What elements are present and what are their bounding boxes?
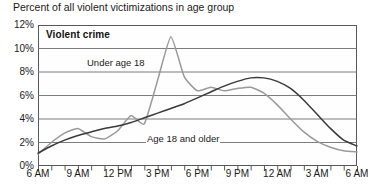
chart-title: Percent of all violent victimizations in… xyxy=(13,1,234,13)
x-tick-label: 9 AM xyxy=(66,168,89,179)
x-tick-label: 12 PM xyxy=(103,168,132,179)
x-tick-label: 6 AM xyxy=(346,168,369,179)
x-tick-label: 12 AM xyxy=(263,168,291,179)
x-tick-label: 3 PM xyxy=(146,168,169,179)
x-tick-label: 6 AM xyxy=(27,168,50,179)
y-tick-label: 2% xyxy=(20,138,34,148)
plot-header-label: Violent crime xyxy=(46,29,110,40)
y-tick-label: 6% xyxy=(20,91,34,101)
x-axis-tick-labels: 6 AM9 AM12 PM3 PM6 PM9 PM12 AM3 AM6 AM xyxy=(0,168,383,182)
y-tick-label: 10% xyxy=(14,44,34,54)
x-tick-label: 6 PM xyxy=(186,168,209,179)
series-label-under-18: Under age 18 xyxy=(86,57,146,68)
series-label-age-18-older: Age 18 and older xyxy=(146,133,220,144)
y-tick-label: 12% xyxy=(14,20,34,30)
x-tick-label: 3 AM xyxy=(306,168,329,179)
y-tick-label: 4% xyxy=(20,114,34,124)
series-lines xyxy=(38,25,357,166)
plot-area: Violent crime Under age 18 Age 18 and ol… xyxy=(38,25,357,166)
y-tick-label: 8% xyxy=(20,67,34,77)
x-tick-label: 9 PM xyxy=(226,168,249,179)
y-axis-tick-labels: 12%10%8%6%4%2%0% xyxy=(0,0,38,187)
